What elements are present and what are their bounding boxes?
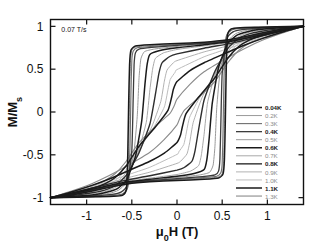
- y-tick-label: 0.5: [27, 62, 44, 76]
- legend-label: 0.3K: [265, 120, 279, 127]
- legend-label: 1.3K: [265, 193, 279, 200]
- x-tick-label: 0.5: [214, 209, 231, 223]
- legend-label: 0.4K: [265, 128, 279, 135]
- legend-label: 0.8K: [265, 160, 279, 167]
- x-tick-label: -0.5: [121, 209, 142, 223]
- legend-label: 0.9K: [265, 169, 279, 176]
- x-tick-label: 1: [264, 209, 271, 223]
- sweep-rate-text: 0.07 T/s: [61, 26, 87, 33]
- x-tick-label: -1: [81, 209, 92, 223]
- legend-label: 1.0K: [265, 177, 279, 184]
- y-tick-label: 1: [37, 20, 44, 34]
- legend-label: 0.5K: [265, 136, 279, 143]
- y-tick-label: -0.5: [23, 148, 44, 162]
- legend-label: 0.7K: [265, 152, 279, 159]
- sweep-rate-annotation: 0.07 T/s: [61, 26, 87, 33]
- legend-label: 1.1K: [265, 185, 279, 192]
- x-tick-label: 0: [174, 209, 181, 223]
- y-tick-label: 0: [37, 105, 44, 119]
- hysteresis-figure: -1-0.500.51-1-0.500.51 0.04K0.2K0.3K0.4K…: [0, 0, 319, 252]
- legend-label: 0.2K: [265, 112, 279, 119]
- legend-label: 0.04K: [265, 104, 282, 111]
- legend-label: 0.6K: [265, 144, 279, 151]
- hysteresis-plot: -1-0.500.51-1-0.500.51 0.04K0.2K0.3K0.4K…: [0, 0, 319, 252]
- y-tick-label: -1: [33, 191, 44, 205]
